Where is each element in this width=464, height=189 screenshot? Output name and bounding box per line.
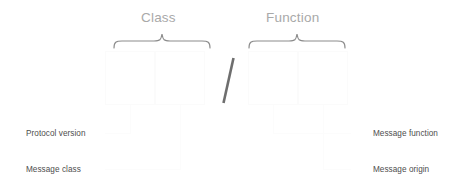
leader-line-message-class-vertical [180, 105, 181, 169]
message-id-structure-diagram: Class Function Protocol version Message … [0, 0, 464, 189]
field-box-message-class [155, 51, 205, 105]
callout-label-message-class: Message class [26, 166, 81, 174]
field-box-message-origin [298, 51, 348, 105]
group-title-class: Class [141, 11, 176, 25]
leader-line-message-origin-horizontal [323, 169, 351, 170]
leader-line-message-class-horizontal [105, 169, 181, 170]
curly-brace-function [247, 32, 347, 50]
field-box-protocol-version [105, 51, 155, 105]
callout-label-message-function: Message function [373, 130, 438, 138]
slash-separator-icon [219, 56, 239, 106]
field-box-message-function [248, 51, 298, 105]
leader-line-protocol-version-horizontal [105, 133, 131, 134]
callout-label-message-origin: Message origin [373, 166, 429, 174]
leader-line-protocol-version-vertical [130, 105, 131, 133]
group-title-function: Function [266, 11, 319, 25]
leader-line-message-function-horizontal [273, 133, 351, 134]
leader-line-message-origin-vertical [323, 105, 324, 169]
callout-label-protocol-version: Protocol version [26, 130, 86, 138]
curly-brace-class [112, 32, 212, 50]
leader-line-message-function-vertical [273, 105, 274, 133]
